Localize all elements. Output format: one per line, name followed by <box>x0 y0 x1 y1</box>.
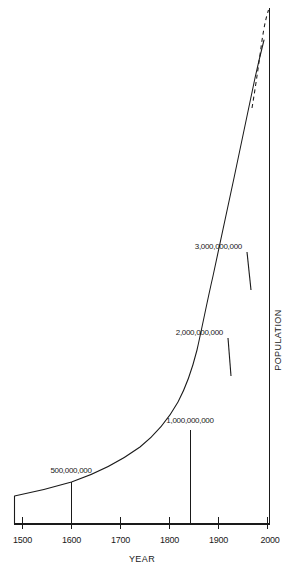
population-curve-projected <box>252 10 269 108</box>
annotation-label-1b: 1,000,000,000 <box>166 416 214 425</box>
population-curve-historical <box>15 40 265 496</box>
x-tick-label-1600: 1600 <box>62 535 81 545</box>
marker-tick-3b <box>247 252 251 290</box>
x-tick-label-1500: 1500 <box>13 535 32 545</box>
x-tick-label-1700: 1700 <box>111 535 130 545</box>
marker-tick-2b <box>228 338 231 376</box>
x-tick-label-2000: 2000 <box>260 535 279 545</box>
chart-canvas: 1500 1600 1700 1800 1900 2000 YEAR POPUL… <box>0 0 290 568</box>
y-axis-title: POPULATION <box>273 309 283 370</box>
population-growth-chart: 1500 1600 1700 1800 1900 2000 YEAR POPUL… <box>0 0 290 568</box>
x-tick-label-1800: 1800 <box>160 535 179 545</box>
annotation-label-2b: 2,000,000,000 <box>176 328 224 337</box>
annotation-label-500m: 500,000,000 <box>50 466 92 475</box>
x-axis-title: YEAR <box>129 554 155 564</box>
annotation-label-3b: 3,000,000,000 <box>195 242 243 251</box>
x-tick-label-1900: 1900 <box>209 535 228 545</box>
